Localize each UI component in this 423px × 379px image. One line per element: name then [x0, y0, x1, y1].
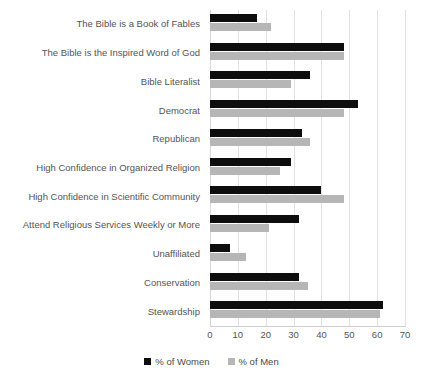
bar-row	[210, 67, 405, 96]
bar-women	[210, 215, 299, 223]
bar-women	[210, 14, 257, 22]
category-label: Republican	[152, 133, 200, 144]
bar-row	[210, 154, 405, 183]
bar-men	[210, 138, 310, 146]
bar-men	[210, 109, 344, 117]
category-label: The Bible is a Book of Fables	[76, 18, 200, 29]
bar-men	[210, 167, 280, 175]
x-axis-line	[210, 326, 406, 327]
category-label: Conservation	[144, 277, 200, 288]
bar-women	[210, 43, 344, 51]
bar-chart: The Bible is a Book of FablesThe Bible i…	[0, 0, 423, 379]
category-label: Democrat	[159, 105, 200, 116]
category-label: High Confidence in Organized Religion	[36, 162, 200, 173]
bar-men	[210, 52, 344, 60]
bar-men	[210, 224, 269, 232]
x-tick-label: 10	[233, 329, 244, 340]
x-tick-label: 30	[288, 329, 299, 340]
bar-women	[210, 244, 230, 252]
bar-women	[210, 100, 358, 108]
bar-men	[210, 23, 271, 31]
bar-row	[210, 39, 405, 68]
bar-women	[210, 186, 321, 194]
x-tick-label: 70	[400, 329, 411, 340]
bar-women	[210, 301, 383, 309]
square-swatch-icon	[144, 358, 151, 365]
bar-women	[210, 71, 310, 79]
category-axis-labels: The Bible is a Book of FablesThe Bible i…	[0, 10, 206, 326]
x-tick-label: 0	[207, 329, 212, 340]
gridline-70	[405, 10, 406, 326]
x-tick-label: 40	[316, 329, 327, 340]
bar-row	[210, 211, 405, 240]
bar-women	[210, 129, 302, 137]
x-axis-tick-labels: 010203040506070	[210, 329, 405, 345]
square-swatch-icon	[228, 358, 235, 365]
bar-row	[210, 96, 405, 125]
plot-area	[210, 10, 405, 326]
bar-row	[210, 182, 405, 211]
legend-label: % of Women	[155, 356, 209, 367]
legend-item[interactable]: % of Women	[144, 356, 209, 367]
bar-rows	[210, 10, 405, 326]
bar-men	[210, 253, 246, 261]
bar-men	[210, 282, 308, 290]
bar-women	[210, 273, 299, 281]
category-label: Stewardship	[148, 306, 200, 317]
x-tick-label: 50	[344, 329, 355, 340]
bar-women	[210, 158, 291, 166]
legend-item[interactable]: % of Men	[228, 356, 279, 367]
legend-label: % of Men	[239, 356, 279, 367]
bar-men	[210, 310, 380, 318]
category-label: The Bible is the Inspired Word of God	[42, 47, 200, 58]
bar-row	[210, 125, 405, 154]
bar-men	[210, 80, 291, 88]
chart-legend: % of Women% of Men	[0, 356, 423, 367]
category-label: Unaffiliated	[153, 248, 200, 259]
bar-men	[210, 195, 344, 203]
x-tick-label: 60	[372, 329, 383, 340]
category-label: High Confidence in Scientific Community	[28, 191, 200, 202]
bar-row	[210, 10, 405, 39]
bar-row	[210, 240, 405, 269]
category-label: Bible Literalist	[141, 76, 200, 87]
bar-row	[210, 297, 405, 326]
bar-row	[210, 269, 405, 298]
x-tick-label: 20	[260, 329, 271, 340]
category-label: Attend Religious Services Weekly or More	[23, 219, 200, 230]
